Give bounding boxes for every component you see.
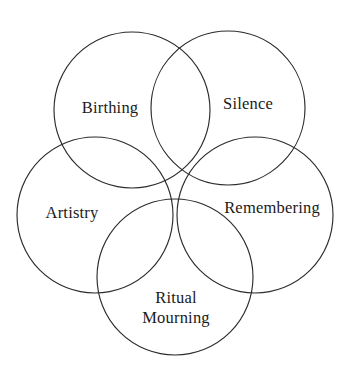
label-silence[interactable]: Silence	[223, 94, 273, 114]
label-artistry[interactable]: Artistry	[46, 203, 99, 223]
label-remembering[interactable]: Remembering	[224, 198, 320, 218]
circle-ritual-mourning[interactable]	[97, 199, 253, 355]
label-birthing[interactable]: Birthing	[82, 98, 139, 118]
venn-diagram: Birthing Silence Artistry Remembering Ri…	[0, 0, 359, 384]
label-ritual-mourning[interactable]: Ritual Mourning	[142, 288, 210, 328]
